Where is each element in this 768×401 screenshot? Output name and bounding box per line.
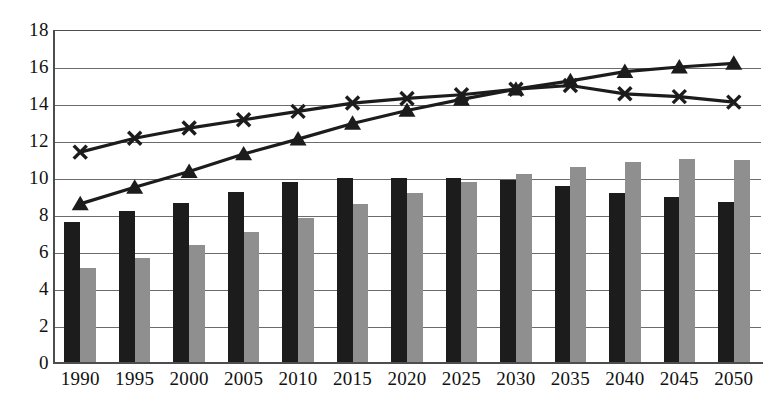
y-axis-tick-label: 8	[3, 205, 49, 224]
y-axis-labels: 181614121086420	[0, 0, 49, 401]
gridline	[55, 290, 761, 291]
y-axis-tick-label: 18	[3, 20, 49, 39]
y-axis-tick-label: 16	[3, 57, 49, 76]
y-axis-tick-label: 14	[3, 94, 49, 113]
gridline	[55, 253, 761, 254]
y-axis-tick-label: 0	[3, 353, 49, 372]
x-axis-tick-label: 1990	[53, 366, 107, 392]
x-axis-tick-label: 2030	[489, 366, 543, 392]
x-axis-tick-label: 2025	[434, 366, 488, 392]
plot-area	[53, 30, 761, 363]
gridline	[55, 105, 761, 106]
x-axis-tick-label: 2015	[325, 366, 379, 392]
y-axis-tick-label: 6	[3, 242, 49, 261]
x-axis-tick-label: 2005	[216, 366, 270, 392]
x-axis-tick-label: 2045	[652, 366, 706, 392]
gridline	[55, 142, 761, 143]
x-axis-tick-label: 2040	[598, 366, 652, 392]
chart-container: 181614121086420 199019952000200520102015…	[0, 0, 768, 401]
x-axis-tick-label: 2035	[543, 366, 597, 392]
y-axis-tick-label: 2	[3, 316, 49, 335]
gridline	[55, 179, 761, 180]
x-axis-tick-label: 2000	[162, 366, 216, 392]
gridlines	[55, 31, 761, 363]
x-axis-tick-label: 2010	[271, 366, 325, 392]
gridline	[55, 327, 761, 328]
y-axis-tick-label: 12	[3, 131, 49, 150]
y-axis-tick-label: 4	[3, 279, 49, 298]
y-axis-tick-label: 10	[3, 168, 49, 187]
gridline	[55, 68, 761, 69]
x-axis-tick-label: 2020	[380, 366, 434, 392]
x-axis-tick-label: 2050	[707, 366, 761, 392]
x-axis-tick-label: 1995	[107, 366, 161, 392]
x-axis-line	[53, 362, 763, 364]
x-axis-labels: 1990199520002005201020152020202520302035…	[53, 366, 761, 398]
gridline	[55, 216, 761, 217]
